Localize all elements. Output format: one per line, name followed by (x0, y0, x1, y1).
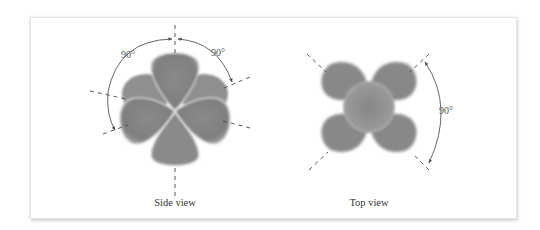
top-axis-nw (307, 54, 326, 72)
side-angle-left-label: 90° (121, 49, 135, 60)
top-view-panel (307, 54, 441, 170)
side-axis-right-upper (224, 77, 250, 88)
side-view-panel (90, 25, 250, 196)
side-angle-right-label: 90° (211, 47, 225, 58)
top-axis-sw (309, 152, 328, 170)
orbital-diagram (0, 0, 540, 230)
side-view-caption: Side view (154, 197, 196, 208)
top-axis-se (412, 153, 429, 170)
top-angle-label: 90° (439, 105, 453, 116)
top-view-caption: Top view (349, 197, 388, 208)
top-center-sphere (343, 81, 395, 133)
